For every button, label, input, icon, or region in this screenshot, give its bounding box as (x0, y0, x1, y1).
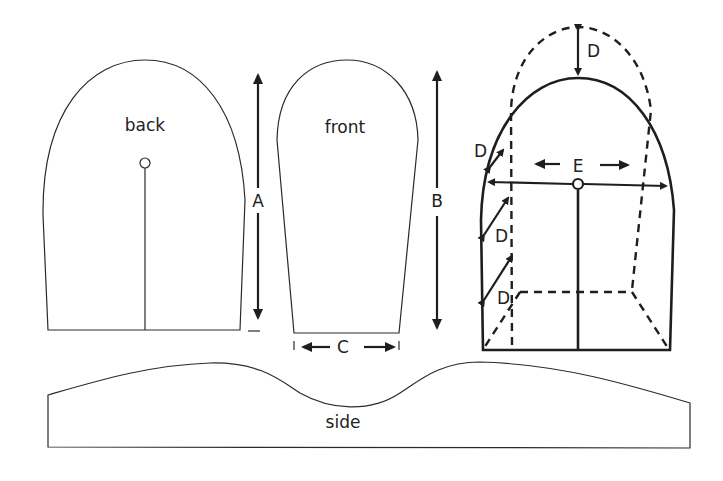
center-marker (573, 179, 583, 189)
measurement-c: C (294, 337, 399, 357)
pattern-diagram: back A front B C (0, 0, 723, 481)
measurement-b: B (431, 72, 443, 328)
measurement-d-label-2: D (495, 226, 508, 246)
measurement-d-label-3: D (497, 288, 510, 308)
front-label: front (325, 117, 366, 137)
measurement-e-label: E (573, 156, 584, 176)
measurement-a-label: A (252, 191, 264, 211)
front-piece: front (277, 60, 418, 333)
arrow-right-icon (584, 184, 666, 186)
measurement-d-label-1: D (474, 141, 487, 161)
back-piece: back (43, 60, 245, 330)
measurement-d-top-label: D (587, 41, 600, 61)
assembled-view: E D D D D (474, 27, 674, 350)
arrow-left-icon (489, 182, 572, 184)
measurement-a: A (248, 75, 264, 331)
back-label: back (125, 115, 166, 135)
base-back-edge (520, 292, 668, 348)
back-center-marker (140, 158, 150, 168)
side-piece: side (48, 362, 690, 448)
side-label: side (326, 412, 361, 432)
measurement-b-label: B (431, 191, 443, 211)
measurement-c-label: C (337, 337, 349, 357)
